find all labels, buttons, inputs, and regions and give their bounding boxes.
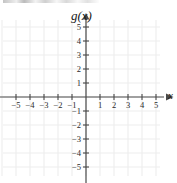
gridlines-group [2, 20, 160, 176]
y-tick-label: 5 [77, 22, 81, 32]
y-tick-label: 2 [77, 64, 81, 74]
y-axis-label: g(x) [71, 9, 92, 22]
x-tick-label: 4 [140, 100, 145, 110]
x-tick-label: 5 [154, 100, 158, 110]
x-tick-label: 3 [126, 100, 130, 110]
x-tick-label: −3 [39, 100, 48, 110]
y-tick-label: 1 [77, 78, 81, 88]
y-tick-label: −5 [72, 162, 81, 172]
y-tick-label: 3 [77, 50, 81, 60]
x-tick-label: 2 [112, 100, 116, 110]
y-tick-label: −1 [72, 106, 81, 116]
x-tick-label: −4 [25, 100, 35, 110]
x-tick-label: −2 [53, 100, 62, 110]
y-tick-label: −3 [72, 134, 81, 144]
x-tick-label: −5 [11, 100, 20, 110]
x-axis-label: x [168, 90, 173, 101]
axes-group [0, 13, 174, 183]
y-tick-label: −2 [72, 120, 81, 130]
coordinate-plane-figure: −5−4−3−2−11234554321−1−2−3−4−5 g(x) x [0, 0, 177, 183]
y-tick-label: −4 [72, 148, 82, 158]
x-tick-label: 1 [98, 100, 102, 110]
coordinate-grid: −5−4−3−2−11234554321−1−2−3−4−5 [0, 0, 177, 183]
